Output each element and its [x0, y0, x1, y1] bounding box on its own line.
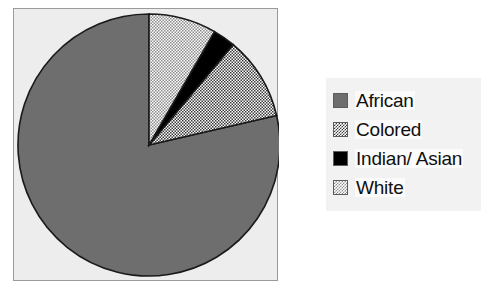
legend-item-african[interactable]: African — [333, 86, 477, 115]
chart-legend: African Colored Indian/ Asian White — [326, 78, 481, 211]
legend-label-indian-asian: Indian/ Asian — [355, 149, 463, 168]
pie-chart-svg — [14, 9, 279, 282]
legend-swatch-colored-icon — [333, 122, 348, 137]
pie-chart-plot-area — [13, 8, 278, 281]
legend-swatch-white-icon — [333, 180, 348, 195]
legend-item-white[interactable]: White — [333, 173, 477, 202]
legend-item-colored[interactable]: Colored — [333, 115, 477, 144]
legend-swatch-african-icon — [333, 93, 348, 108]
legend-label-african: African — [355, 91, 415, 110]
legend-swatch-indian-asian-icon — [333, 151, 348, 166]
legend-item-indian-asian[interactable]: Indian/ Asian — [333, 144, 477, 173]
legend-label-white: White — [355, 178, 405, 197]
legend-label-colored: Colored — [355, 120, 422, 139]
